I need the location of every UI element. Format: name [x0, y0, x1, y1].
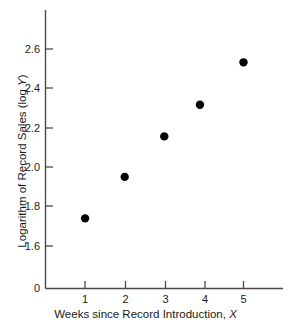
x-axis-variable: X	[229, 308, 237, 320]
axis-origin-label: 0	[14, 283, 40, 294]
y-axis-variable: Y	[16, 78, 28, 86]
data-point	[196, 101, 204, 109]
x-axis-title: Weeks since Record Introduction, X	[0, 308, 291, 320]
y-axis-title: Logarithm of Record Sales (log Y)	[16, 61, 28, 261]
data-point	[121, 173, 129, 181]
scatter-plot-figure: 2.6 2.4 2.2 2.0 1.8 1.6 0 1 2 3 4 5 Week…	[0, 0, 291, 326]
x-tick-label-3: 3	[162, 294, 168, 305]
x-tick-label-5: 5	[240, 294, 246, 305]
plot-canvas	[0, 0, 291, 326]
x-axis-title-text: Weeks since Record Introduction,	[54, 308, 229, 320]
y-axis-title-text: Logarithm of Record Sales (log	[16, 86, 28, 248]
x-tick-label-2: 2	[122, 294, 128, 305]
x-tick-label-4: 4	[202, 294, 208, 305]
y-tick-label-2-6: 2.6	[14, 44, 40, 55]
data-point	[239, 58, 247, 66]
data-point	[160, 132, 168, 140]
y-axis-title-suffix: )	[16, 74, 28, 78]
x-tick-label-1: 1	[82, 294, 88, 305]
data-point	[81, 214, 89, 222]
